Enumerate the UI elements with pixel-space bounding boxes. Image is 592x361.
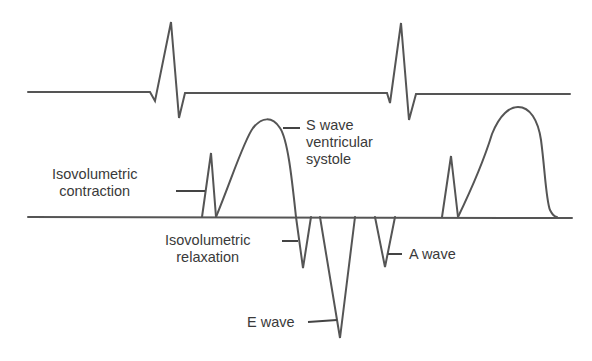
label-line: A wave	[409, 246, 456, 263]
label-e-wave: E wave	[247, 314, 295, 331]
label-isovolumetric-contraction: Isovolumetric contraction	[52, 166, 137, 200]
label-s-wave: S wave ventricular systole	[306, 117, 373, 168]
label-line: Isovolumetric	[52, 166, 137, 183]
isovolumetric-contraction-spike-1	[202, 153, 216, 217]
label-isovolumetric-relaxation: Isovolumetric relaxation	[165, 232, 250, 266]
label-line: contraction	[52, 183, 137, 200]
label-line: ventricular	[306, 134, 373, 151]
leader-e-wave	[308, 320, 337, 322]
label-line: S wave	[306, 117, 373, 134]
s-wave-1	[216, 119, 296, 217]
isovolumetric-relaxation-dip	[296, 217, 311, 268]
doppler-baseline	[28, 217, 572, 218]
label-a-wave: A wave	[409, 246, 456, 263]
label-line: relaxation	[165, 249, 250, 266]
ecg-trace	[28, 22, 570, 120]
label-line: systole	[306, 151, 373, 168]
label-line: Isovolumetric	[165, 232, 250, 249]
label-line: E wave	[247, 314, 295, 331]
a-wave-dip	[375, 217, 395, 267]
s-wave-2	[458, 107, 557, 217]
isovolumetric-contraction-spike-2	[442, 156, 458, 217]
